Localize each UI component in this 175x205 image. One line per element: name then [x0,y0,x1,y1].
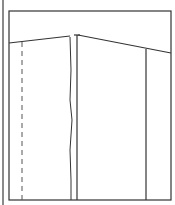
top-line-left [9,36,70,43]
pattern-diagram [0,0,175,205]
frame [9,11,171,200]
top-line-right [78,35,171,53]
wavy-seam-line [70,37,72,200]
